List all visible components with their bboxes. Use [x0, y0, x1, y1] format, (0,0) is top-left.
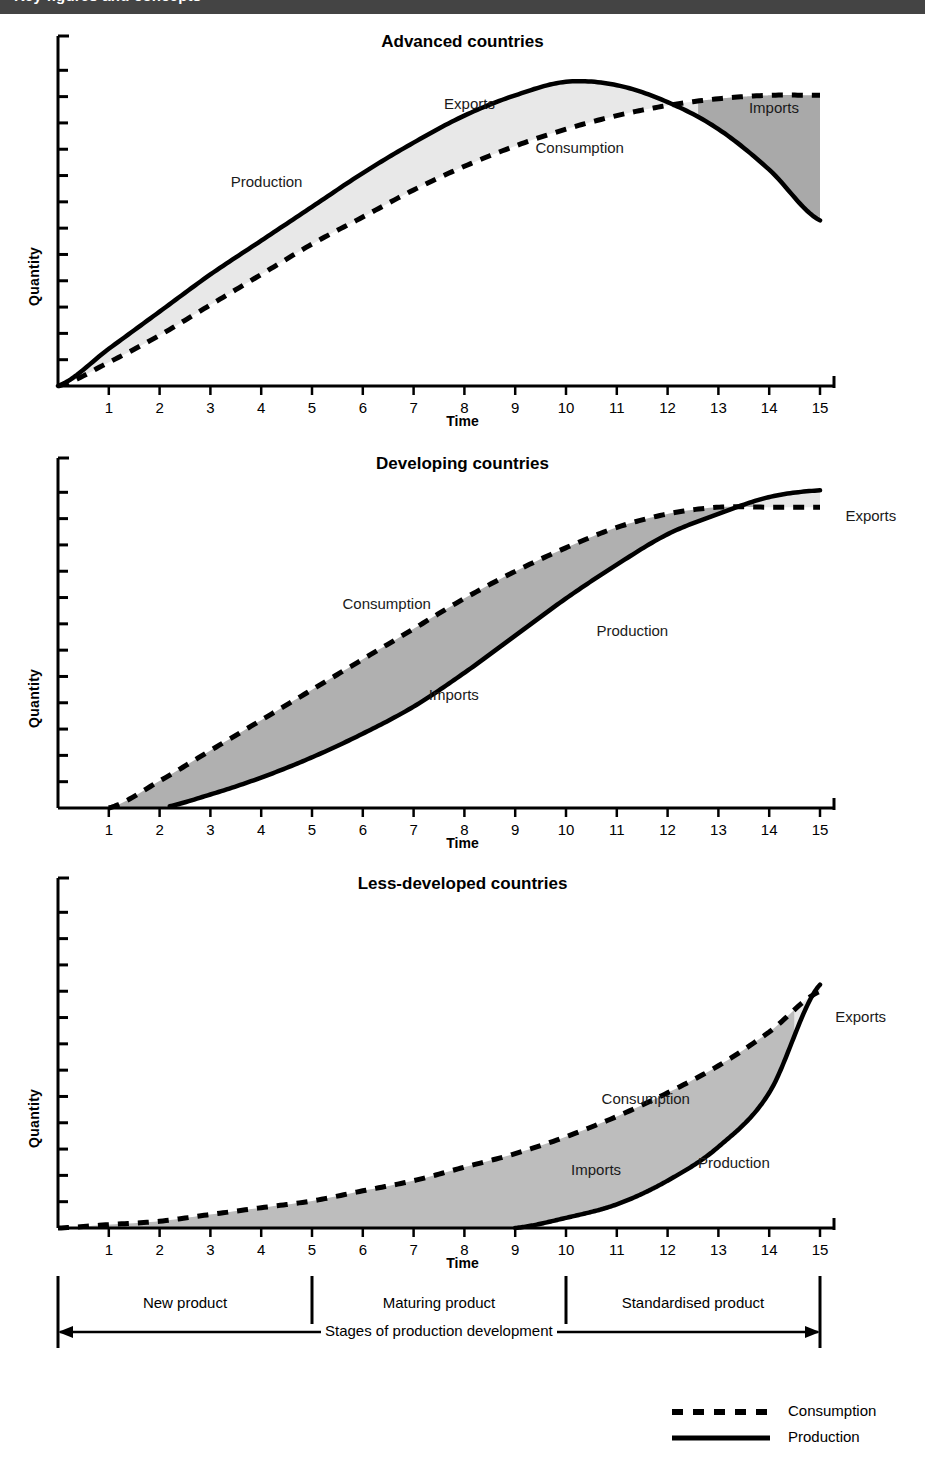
x-axis-tick-label: 13	[703, 1241, 733, 1258]
x-axis-tick-label: 9	[500, 821, 530, 838]
x-axis-tick-label: 6	[348, 399, 378, 416]
stage-label: Standardised product	[583, 1294, 803, 1311]
page-header-title: Key figures and concepts	[14, 0, 201, 4]
x-axis-tick-label: 14	[754, 399, 784, 416]
curve-label-imports: Imports	[571, 1161, 621, 1178]
curve-label-imports: Imports	[749, 99, 799, 116]
stages-caption: Stages of production development	[321, 1322, 557, 1339]
x-axis-tick-label: 2	[145, 1241, 175, 1258]
x-axis-tick-label: 14	[754, 1241, 784, 1258]
x-axis-tick-label: 8	[449, 1241, 479, 1258]
curve-label-consumption: Consumption	[536, 139, 624, 156]
x-axis-tick-label: 12	[653, 1241, 683, 1258]
curve-label-production: Production	[698, 1154, 770, 1171]
x-axis-tick-label: 7	[399, 821, 429, 838]
shaded-region-imports	[109, 501, 754, 808]
x-axis-tick-label: 9	[500, 399, 530, 416]
x-axis-tick-label: 10	[551, 1241, 581, 1258]
x-axis-tick-label: 15	[805, 1241, 835, 1258]
curve-label-exports: Exports	[845, 507, 896, 524]
stages-arrow-head-right	[805, 1326, 820, 1338]
chart-canvas-less-developed	[0, 860, 925, 1280]
stage-label: Maturing product	[329, 1294, 549, 1311]
x-axis-tick-label: 8	[449, 399, 479, 416]
curve-label-exports: Exports	[835, 1008, 886, 1025]
x-axis-tick-label: 4	[246, 1241, 276, 1258]
curve-label-exports: Exports	[444, 95, 495, 112]
chart-panel-developing-countries: Developing countries Quantity Time 12345…	[0, 440, 925, 860]
x-axis-tick-label: 5	[297, 399, 327, 416]
stages-arrow-head-left	[58, 1326, 73, 1338]
x-axis-tick-label: 12	[653, 821, 683, 838]
legend-swatches	[0, 1398, 925, 1458]
shaded-region-imports	[88, 1010, 794, 1228]
page-header-banner: Key figures and concepts	[0, 0, 925, 14]
x-axis-tick-label: 11	[602, 399, 632, 416]
stage-label: New product	[75, 1294, 295, 1311]
x-axis-tick-label: 3	[195, 399, 225, 416]
x-axis-tick-label: 1	[94, 1241, 124, 1258]
x-axis-tick-label: 6	[348, 1241, 378, 1258]
chart-legend: ConsumptionProduction	[0, 1398, 925, 1458]
x-axis-tick-label: 2	[145, 399, 175, 416]
x-axis-tick-label: 1	[94, 821, 124, 838]
x-axis-tick-label: 13	[703, 821, 733, 838]
curve-label-production: Production	[596, 622, 668, 639]
x-axis-tick-label: 8	[449, 821, 479, 838]
x-axis-tick-label: 4	[246, 399, 276, 416]
x-axis-tick-label: 6	[348, 821, 378, 838]
x-axis-tick-label: 3	[195, 1241, 225, 1258]
x-axis-tick-label: 2	[145, 821, 175, 838]
chart-canvas-developing	[0, 440, 925, 860]
chart-panel-advanced-countries: Advanced countries Quantity Time 1234567…	[0, 18, 925, 438]
x-axis-tick-label: 7	[399, 1241, 429, 1258]
curve-label-imports: Imports	[429, 686, 479, 703]
legend-label-production: Production	[788, 1428, 860, 1445]
x-axis-tick-label: 11	[602, 821, 632, 838]
curve-label-consumption: Consumption	[602, 1090, 690, 1107]
x-axis-tick-label: 9	[500, 1241, 530, 1258]
chart-panel-less-developed-countries: Less-developed countries Quantity Time 1…	[0, 860, 925, 1280]
legend-label-consumption: Consumption	[788, 1402, 876, 1419]
x-axis-tick-label: 5	[297, 821, 327, 838]
production-curve	[58, 81, 820, 386]
x-axis-tick-label: 15	[805, 821, 835, 838]
x-axis-tick-label: 11	[602, 1241, 632, 1258]
stages-section: New productMaturing productStandardised …	[0, 1272, 925, 1382]
x-axis-tick-label: 7	[399, 399, 429, 416]
x-axis-tick-label: 10	[551, 399, 581, 416]
x-axis-tick-label: 5	[297, 1241, 327, 1258]
curve-label-consumption: Consumption	[342, 595, 430, 612]
x-axis-tick-label: 15	[805, 399, 835, 416]
x-axis-tick-label: 14	[754, 821, 784, 838]
x-axis-tick-label: 12	[653, 399, 683, 416]
x-axis-tick-label: 3	[195, 821, 225, 838]
x-axis-tick-label: 4	[246, 821, 276, 838]
curve-label-production: Production	[231, 173, 303, 190]
x-axis-tick-label: 13	[703, 399, 733, 416]
chart-canvas-advanced	[0, 18, 925, 438]
x-axis-tick-label: 10	[551, 821, 581, 838]
x-axis-tick-label: 1	[94, 399, 124, 416]
